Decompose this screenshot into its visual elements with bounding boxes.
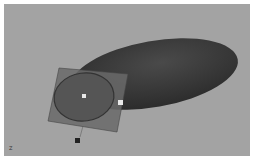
scene: [4, 4, 250, 156]
edge-handle[interactable]: [118, 100, 123, 105]
pivot-line: [80, 126, 83, 137]
pivot-handle[interactable]: [75, 138, 80, 143]
axis-indicator: Z: [9, 145, 12, 151]
camera-label: persp: [4, 155, 250, 156]
3d-viewport[interactable]: Z persp: [4, 4, 250, 156]
center-handle[interactable]: [82, 94, 86, 98]
